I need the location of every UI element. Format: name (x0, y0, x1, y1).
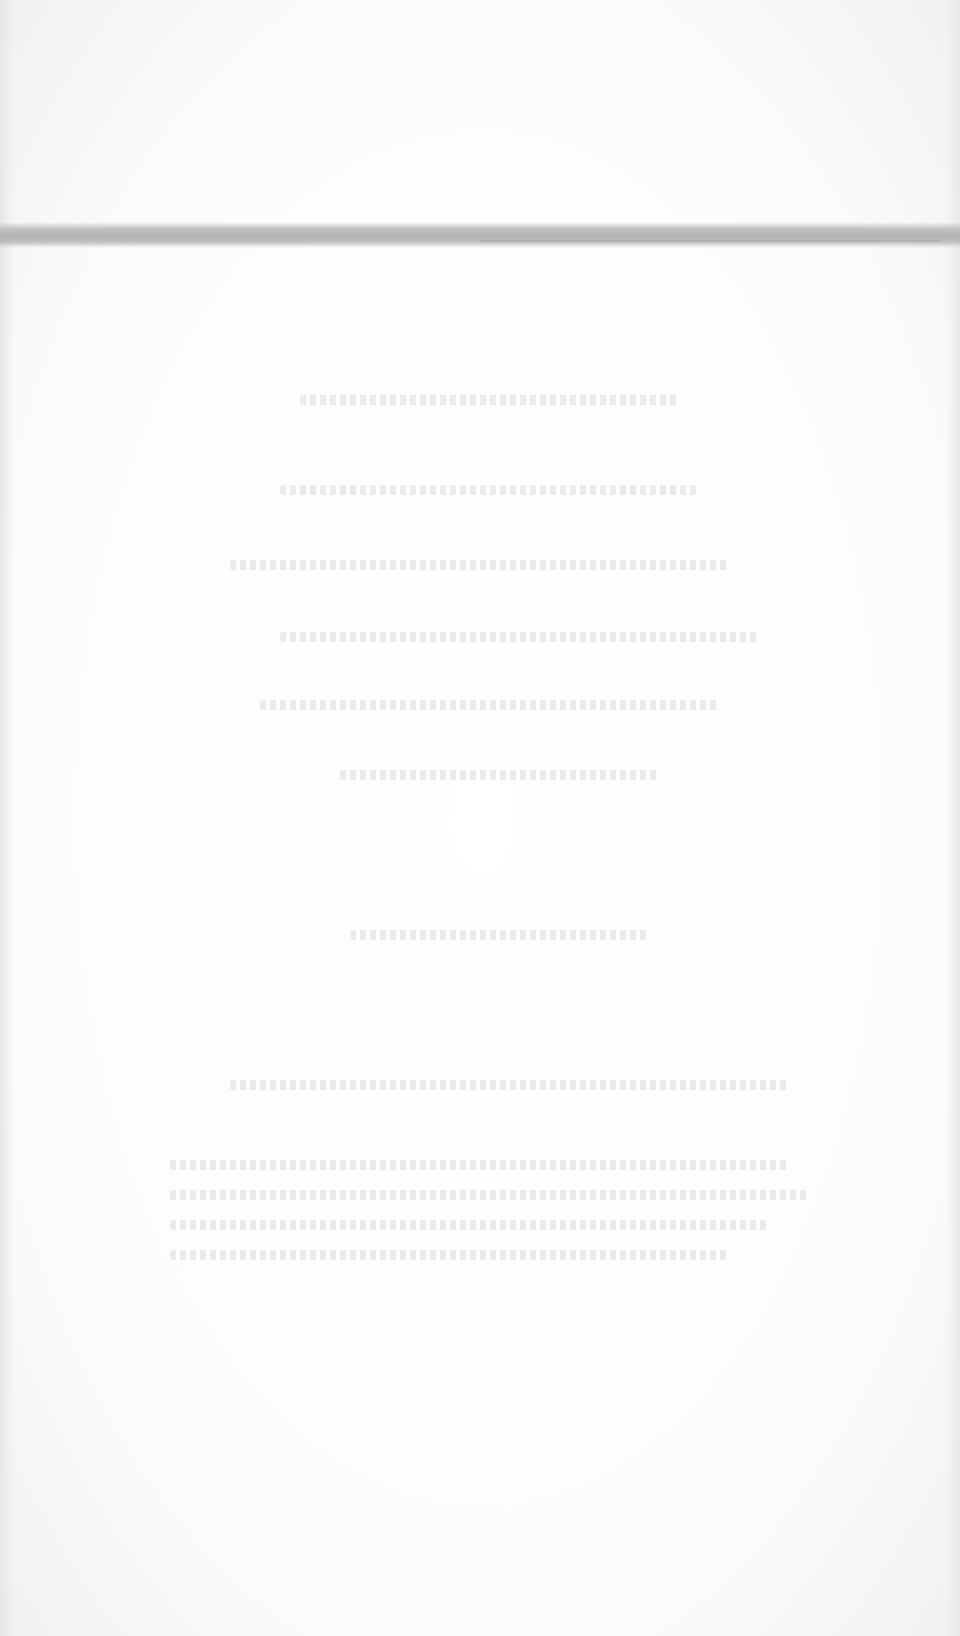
faded-text-line (260, 700, 720, 710)
horizontal-rule-inner-line (480, 240, 940, 242)
faded-text-line (230, 560, 730, 570)
faded-text-line (280, 632, 760, 642)
faded-text-line (280, 485, 700, 495)
faded-text-line (170, 1190, 810, 1200)
faded-text-line (170, 1160, 790, 1170)
faded-text-line (300, 395, 680, 405)
faded-text-line (340, 770, 660, 780)
faded-text-line (230, 1080, 790, 1090)
faded-text-line (170, 1250, 730, 1260)
faded-text-line (350, 930, 650, 940)
document-page (0, 0, 960, 1636)
horizontal-rule-band (0, 222, 960, 248)
faded-text-line (170, 1220, 770, 1230)
